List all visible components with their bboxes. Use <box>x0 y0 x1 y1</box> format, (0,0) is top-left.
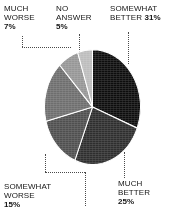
callout-much-worse-line2: WORSE <box>4 13 35 22</box>
callout-no-answer-line2: ANSWER <box>56 13 92 22</box>
callout-somewhat-worse: SOMEWHAT WORSE 15% <box>4 182 51 210</box>
pie-chart <box>44 49 141 165</box>
callout-much-worse-line1: MUCH <box>4 4 35 13</box>
callout-no-answer: NO ANSWER 5% <box>56 4 92 32</box>
callout-somewhat-better: SOMEWHAT BETTER 31% <box>110 4 161 22</box>
callout-somewhat-worse-line2: WORSE <box>4 191 51 200</box>
callout-much-better-percent: 25% <box>118 197 150 206</box>
leader-line-somewhat-worse-vertical-right <box>85 172 86 206</box>
pie-chart-figure: MUCH WORSE 7% NO ANSWER 5% SOMEWHAT BETT… <box>0 0 177 218</box>
callout-no-answer-line1: NO <box>56 4 92 13</box>
callout-somewhat-better-line2: BETTER 31% <box>110 13 161 22</box>
callout-somewhat-better-line1: SOMEWHAT <box>110 4 161 13</box>
leader-line-somewhat-worse-horizontal <box>45 172 85 173</box>
callout-somewhat-worse-percent: 15% <box>4 200 51 209</box>
pie-chart-svg <box>44 49 141 165</box>
callout-no-answer-percent: 5% <box>56 22 92 31</box>
pie-slice-group <box>44 50 140 165</box>
callout-much-worse: MUCH WORSE 7% <box>4 4 35 32</box>
callout-much-worse-percent: 7% <box>4 22 35 31</box>
callout-somewhat-better-percent: 31% <box>145 13 161 22</box>
callout-somewhat-worse-line1: SOMEWHAT <box>4 182 51 191</box>
callout-somewhat-better-line2-text: BETTER <box>110 13 142 22</box>
leader-line-much-worse-horizontal <box>22 47 71 48</box>
leader-line-much-worse-vertical <box>22 36 23 47</box>
callout-much-better-line1: MUCH <box>118 179 150 188</box>
callout-much-better: MUCH BETTER 25% <box>118 179 150 207</box>
callout-much-better-line2: BETTER <box>118 188 150 197</box>
